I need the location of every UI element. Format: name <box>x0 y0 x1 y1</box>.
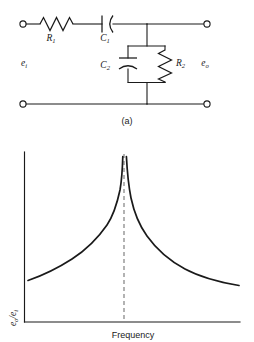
chart-x-axis-label: Frequency <box>112 330 155 340</box>
curve-left-branch <box>28 157 123 281</box>
figure-root: R1 C1 C2 R2 ei eo (a) eo <box>0 0 254 342</box>
input-terminal-bottom <box>20 101 26 107</box>
input-terminal-top <box>20 21 26 27</box>
label-c1: C1 <box>100 33 110 44</box>
output-terminal-bottom <box>204 101 210 107</box>
circuit-diagram: R1 C1 C2 R2 ei eo (a) <box>0 0 254 130</box>
label-r1: R1 <box>45 33 55 44</box>
chart-y-axis-label: eo/ei <box>8 310 19 326</box>
label-r2: R2 <box>175 58 186 69</box>
resistor-r2-symbol <box>159 50 172 82</box>
label-ei: ei <box>21 58 27 69</box>
label-c2: C2 <box>100 60 110 71</box>
curve-right-branch <box>126 157 239 286</box>
subfigure-caption-a: (a) <box>122 116 133 126</box>
resistor-r1-symbol <box>40 18 73 31</box>
output-terminal-top <box>204 21 210 27</box>
label-eo: eo <box>201 58 209 69</box>
response-curve-chart: eo/ei Frequency <box>0 130 254 342</box>
